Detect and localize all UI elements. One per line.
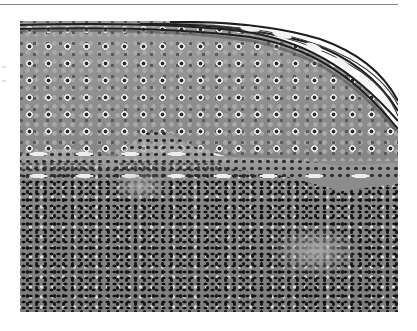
stratum-corneum xyxy=(20,21,398,131)
margin-mark xyxy=(2,80,6,82)
top-rule xyxy=(0,4,398,5)
pale-dermal-patch xyxy=(270,226,360,276)
margin-mark xyxy=(2,66,6,68)
pale-dermal-patch xyxy=(110,171,170,201)
histology-micrograph xyxy=(20,21,398,312)
